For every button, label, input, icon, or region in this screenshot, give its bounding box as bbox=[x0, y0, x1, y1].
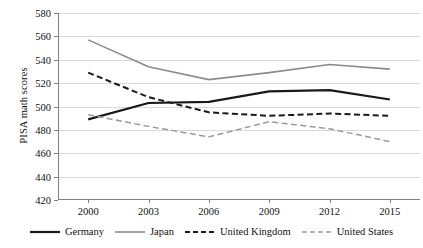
legend-item-united-kingdom[interactable]: United Kingdom bbox=[185, 226, 291, 237]
y-axis-tick-label: 420 bbox=[35, 195, 51, 206]
pisa-math-scores-line-chart: PISA math scores 42044046048050052054056… bbox=[0, 0, 423, 248]
y-axis-tick-label: 560 bbox=[35, 31, 51, 42]
y-axis-tick-label: 580 bbox=[35, 8, 51, 19]
legend-label-united-states: United States bbox=[337, 226, 393, 237]
x-axis-tick-label: 2000 bbox=[78, 206, 99, 217]
y-axis-title: PISA math scores bbox=[18, 31, 29, 181]
y-axis-tick-label: 540 bbox=[35, 54, 51, 65]
legend-swatch-united-states-icon bbox=[302, 227, 332, 237]
series-line-united-states bbox=[88, 115, 390, 142]
x-axis-tick-label: 2003 bbox=[138, 206, 159, 217]
plot-area: 420440460480500520540560580 200020032006… bbox=[58, 13, 420, 200]
legend-label-japan: Japan bbox=[150, 226, 174, 237]
legend-swatch-japan-icon bbox=[115, 227, 145, 237]
legend-item-japan[interactable]: Japan bbox=[115, 226, 174, 237]
legend-label-germany: Germany bbox=[65, 226, 104, 237]
y-axis-tick-label: 460 bbox=[35, 148, 51, 159]
plot-wrapper: 420440460480500520540560580 200020032006… bbox=[58, 13, 420, 200]
y-axis-tick-label: 440 bbox=[35, 171, 51, 182]
series-line-united-kingdom bbox=[88, 73, 390, 116]
chart-legend: GermanyJapanUnited KingdomUnited States bbox=[0, 226, 423, 237]
x-axis-tick-label: 2012 bbox=[319, 206, 340, 217]
legend-swatch-germany-icon bbox=[30, 227, 60, 237]
legend-label-united-kingdom: United Kingdom bbox=[220, 226, 291, 237]
x-axis-tick-label: 2015 bbox=[379, 206, 400, 217]
x-axis-tick-label: 2006 bbox=[198, 206, 219, 217]
y-axis-tick-label: 500 bbox=[35, 101, 51, 112]
series-line-japan bbox=[88, 40, 390, 80]
series-lines bbox=[58, 13, 420, 200]
legend-swatch-united-kingdom-icon bbox=[185, 227, 215, 237]
y-axis-tick-label: 520 bbox=[35, 78, 51, 89]
legend-item-germany[interactable]: Germany bbox=[30, 226, 104, 237]
legend-item-united-states[interactable]: United States bbox=[302, 226, 393, 237]
y-axis-tick-label: 480 bbox=[35, 124, 51, 135]
x-axis-tick-label: 2009 bbox=[259, 206, 280, 217]
